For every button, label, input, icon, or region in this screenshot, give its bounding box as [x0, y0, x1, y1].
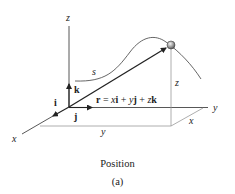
i-label: i — [54, 97, 57, 108]
z-axis-label: z — [65, 12, 70, 23]
position-equation: r = xi + yj + zk — [96, 94, 157, 105]
y-axis-label: y — [212, 102, 218, 113]
x-axis-label: x — [11, 133, 17, 144]
x-component-label: x — [188, 115, 194, 126]
eq-k: k — [151, 94, 157, 105]
eq-plus-1: + — [118, 94, 129, 105]
caption-title: Position — [0, 158, 235, 169]
k-label: k — [74, 84, 80, 95]
z-component-label: z — [174, 77, 179, 88]
eq-plus-2: + — [137, 94, 148, 105]
y-component-label: y — [100, 126, 106, 137]
position-vector-diagram: z y x y x z s k j i r = xi + yj + zk — [0, 0, 235, 194]
x-axis — [22, 116, 53, 134]
caption-label: (a) — [0, 176, 235, 187]
path-label: s — [92, 66, 96, 77]
x-component-line — [171, 108, 203, 126]
eq-equals: = — [100, 94, 111, 105]
i-unit-vector — [53, 107, 69, 116]
j-label: j — [73, 111, 77, 122]
particle — [167, 41, 175, 49]
